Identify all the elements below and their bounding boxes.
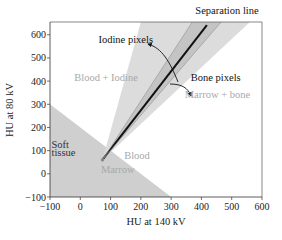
annotation-tissue: tissue (52, 147, 76, 158)
x-tick-label: 300 (164, 201, 179, 212)
y-tick-label: 500 (31, 52, 46, 63)
x-ticks: −1000100200300400500600 (40, 197, 270, 212)
annotation-marrow: Marrow (101, 164, 135, 175)
y-ticks: −1000100200300400500600 (25, 29, 50, 202)
x-tick-label: 500 (224, 201, 239, 212)
y-tick-label: −100 (25, 192, 46, 203)
annotation-iodine-pixels: Iodine pixels (98, 34, 153, 45)
chart: −1000100200300400500600 −100010020030040… (0, 0, 282, 240)
y-tick-label: 100 (31, 145, 46, 156)
origin-point (101, 158, 104, 161)
x-tick-label: 100 (103, 201, 118, 212)
y-tick-label: 200 (31, 122, 46, 133)
y-tick-label: 300 (31, 99, 46, 110)
x-tick-label: 600 (255, 201, 270, 212)
annotation-separation-line: Separation line (195, 5, 259, 16)
x-tick-label: −100 (40, 201, 61, 212)
y-tick-label: 0 (41, 168, 46, 179)
x-tick-label: 200 (133, 201, 148, 212)
y-tick-label: 400 (31, 76, 46, 87)
x-tick-label: 400 (194, 201, 209, 212)
y-tick-label: 600 (31, 29, 46, 40)
annotation-blood-iodine: Blood + Iodine (74, 72, 138, 83)
x-axis-label: HU at 140 kV (126, 216, 186, 227)
x-tick-label: 0 (78, 201, 83, 212)
annotation-blood: Blood (124, 150, 150, 161)
annotation-marrow-bone: Marrow + bone (185, 89, 251, 100)
plot-regions (50, 22, 250, 197)
annotation-bone-pixels: Bone pixels (191, 72, 241, 83)
y-axis-label: HU at 80 kV (4, 83, 15, 137)
